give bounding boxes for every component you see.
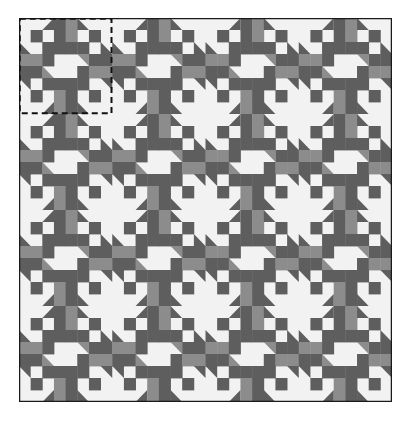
quilt-pattern [19, 18, 392, 402]
quilt-pattern-svg [19, 18, 392, 402]
